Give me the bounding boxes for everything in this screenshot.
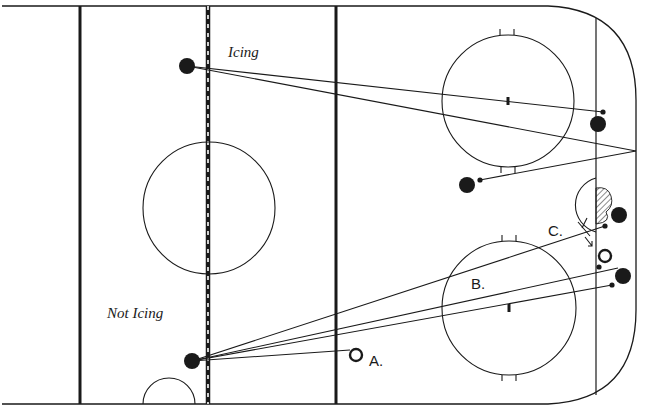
player-bottom-right [615,268,631,284]
player-hollow-a [350,349,362,361]
player-not-icing-shooter [184,353,200,369]
player-hollow-right [599,250,611,262]
hockey-rink-diagram [0,0,645,408]
rink-lines [80,6,596,404]
goal-crease [575,178,596,232]
faceoff-dot-bottom [508,304,511,312]
pass-lines [187,66,636,361]
player-mid-left [459,177,475,193]
rink-boundary [2,6,636,404]
player-icing-shooter [179,58,195,74]
label-a: A. [369,352,383,369]
player-crease [611,207,627,223]
player-top-right [590,116,606,132]
label-b: B. [471,275,485,292]
faceoff-circles [143,29,596,404]
label-not-icing: Not Icing [107,305,163,322]
label-icing: Icing [228,44,259,61]
referee-crease [143,378,195,404]
label-c: C. [548,222,563,239]
goal-net-hatched [596,188,612,224]
